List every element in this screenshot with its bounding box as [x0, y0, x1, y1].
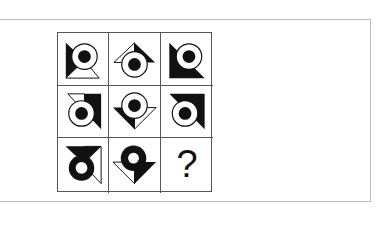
- cell-r1-c1: [58, 33, 109, 86]
- figure-circle-top-right-black-triangle-icon: [161, 86, 213, 137]
- cell-r2-c2: [109, 86, 161, 138]
- figure-circle-bottom-triangle-icon: [109, 86, 160, 137]
- cell-r3-c1: [58, 138, 109, 193]
- cell-r1-c2: [109, 33, 161, 86]
- question-mark: ?: [161, 142, 213, 186]
- figure-black-ring-bottom-triangle-icon: [109, 138, 160, 193]
- cell-r2-c3: [161, 86, 213, 138]
- cell-r2-c1: [58, 86, 109, 138]
- figure-circle-top-right-triangle-icon: [58, 86, 108, 137]
- cell-r3-c2: [109, 138, 161, 193]
- puzzle-grid: ?: [57, 32, 212, 192]
- figure-circle-top-triangle-icon: [109, 33, 160, 85]
- cell-r1-c3: [161, 33, 213, 86]
- figure-circle-left-bottom-black-triangle-icon: [161, 33, 213, 85]
- figure-circle-left-triangle-icon: [58, 33, 108, 85]
- cell-r3-c3: ?: [161, 138, 213, 193]
- figure-black-ring-top-right-triangle-icon: [58, 138, 108, 193]
